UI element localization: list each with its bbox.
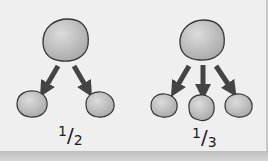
child-cell-left-1 [17, 91, 47, 117]
child-cell-right-1 [151, 94, 177, 117]
arrow-right-1 [175, 66, 189, 90]
fraction-slash: / [201, 125, 208, 149]
fraction-slash: / [67, 123, 74, 147]
fraction-label-half: 1/2 [58, 122, 83, 147]
parent-cell-left [43, 19, 88, 61]
fraction-numerator: 1 [58, 123, 67, 139]
fraction-denominator: 3 [208, 134, 217, 150]
child-cell-right-3 [225, 94, 252, 117]
arrow-right-3 [216, 66, 232, 90]
division-diagram [0, 0, 268, 161]
parent-cell-right [180, 20, 224, 60]
thirding-group [151, 20, 252, 121]
fraction-label-third: 1/3 [192, 124, 217, 149]
fraction-denominator: 2 [74, 132, 83, 148]
arrow-left-2 [74, 66, 88, 90]
child-cell-left-2 [86, 92, 114, 117]
child-cell-right-2 [189, 95, 214, 121]
halving-group [17, 19, 114, 117]
fraction-numerator: 1 [192, 125, 201, 141]
arrow-left-1 [44, 66, 58, 90]
